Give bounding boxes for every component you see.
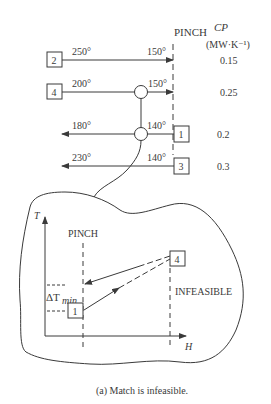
stream-3-end-temp: 230°: [72, 152, 91, 163]
cp-header: CP: [214, 21, 228, 33]
stream-2-cp: 0.15: [220, 55, 238, 66]
stream-3-cp: 0.3: [217, 161, 230, 172]
callout-leader: [94, 141, 141, 198]
callout-blob: [19, 192, 243, 364]
hot-line-dashed: [140, 256, 170, 266]
t-axis-label: T: [34, 210, 41, 221]
stream-4-start-temp: 200°: [72, 78, 91, 89]
inset-pinch-label: PINCH: [68, 228, 98, 239]
pinch-label: PINCH: [174, 26, 207, 38]
cold-line-dashed: [119, 259, 170, 288]
stream-3-id: 3: [179, 161, 184, 172]
stream-1-id: 1: [179, 129, 184, 140]
stream-4-cp: 0.25: [220, 87, 238, 98]
exchanger-circle-cold: [135, 128, 148, 141]
stream-2-end-temp: 150°: [147, 46, 166, 57]
cold-line-solid: [84, 288, 119, 310]
stream-2-id: 2: [52, 55, 57, 66]
stream-1-start-temp: 140°: [147, 120, 166, 131]
stream-3-start-temp: 140°: [147, 152, 166, 163]
stream-2-start-temp: 250°: [72, 46, 91, 57]
stream-3: 3 230° 140° 0.3: [62, 152, 230, 174]
stream-4-end-temp: 150°: [148, 78, 167, 89]
cp-units: (MW·K⁻¹): [206, 39, 250, 51]
dtmin-label: ΔT: [46, 291, 60, 303]
inset-box-4-id: 4: [175, 254, 180, 265]
exchanger-circle-hot: [135, 86, 148, 99]
stream-1-cp: 0.2: [217, 129, 230, 140]
inset-box-1-id: 1: [73, 306, 78, 317]
h-axis-label: H: [184, 341, 193, 352]
stream-4-id: 4: [52, 87, 57, 98]
infeasible-label: INFEASIBLE: [175, 286, 232, 297]
stream-1-end-temp: 180°: [72, 120, 91, 131]
figure-caption: (a) Match is infeasible.: [96, 385, 188, 397]
diagram-canvas: PINCH CP (MW·K⁻¹) 2 250° 150° 0.15 4 200…: [0, 0, 271, 404]
inset-plot: T H PINCH INFEASIBLE ΔT min 1 4: [34, 210, 232, 352]
